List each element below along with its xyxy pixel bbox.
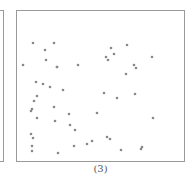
data-point — [45, 59, 48, 62]
figure-caption: (3) — [16, 163, 185, 174]
data-point — [31, 145, 34, 148]
data-point — [32, 42, 35, 45]
data-point — [42, 83, 45, 86]
data-point — [103, 92, 106, 95]
data-point — [22, 64, 25, 67]
data-point — [109, 138, 112, 141]
data-point — [135, 67, 138, 70]
data-point — [105, 56, 108, 59]
data-point — [53, 42, 56, 45]
data-point — [74, 129, 77, 132]
data-point — [77, 64, 80, 67]
data-point — [33, 100, 36, 103]
scatter-points — [0, 0, 195, 187]
data-point — [35, 81, 38, 84]
data-point — [107, 59, 110, 62]
data-point — [73, 145, 76, 148]
data-point — [30, 133, 33, 136]
data-point — [49, 86, 52, 89]
data-point — [116, 97, 119, 100]
data-point — [32, 137, 35, 140]
data-point — [152, 117, 155, 120]
data-point — [96, 112, 99, 115]
data-point — [110, 47, 113, 50]
data-point — [68, 113, 71, 116]
data-point — [120, 149, 123, 152]
data-point — [36, 95, 39, 98]
data-point — [106, 136, 109, 139]
data-point — [113, 53, 116, 56]
data-point — [57, 152, 60, 155]
data-point — [56, 66, 59, 69]
data-point — [62, 89, 65, 92]
data-point — [140, 148, 143, 151]
data-point — [125, 73, 128, 76]
data-point — [134, 93, 137, 96]
data-point — [133, 64, 136, 67]
data-point — [126, 44, 129, 47]
data-point — [54, 120, 57, 123]
data-point — [53, 106, 56, 109]
data-point — [31, 150, 34, 153]
data-point — [36, 117, 39, 120]
data-point — [44, 49, 47, 52]
data-point — [86, 143, 89, 146]
data-point — [30, 110, 33, 113]
data-point — [151, 56, 154, 59]
data-point — [91, 140, 94, 143]
data-point — [69, 124, 72, 127]
